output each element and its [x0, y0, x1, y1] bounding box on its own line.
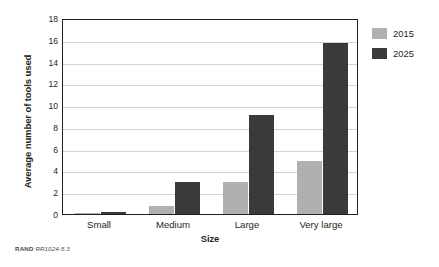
x-axis-tick-label-very-large: Very large: [276, 219, 366, 230]
gridline: [63, 85, 357, 86]
y-axis-tick-label: 10: [36, 102, 58, 111]
y-axis-tick-label: 12: [36, 80, 58, 89]
y-axis-tick-label: 16: [36, 37, 58, 46]
y-axis-tick-label: 6: [36, 146, 58, 155]
bar-large-2015: [223, 182, 248, 214]
figure-footer: RAND RR1024-5.3: [15, 245, 70, 252]
legend-item-2025: 2025: [372, 48, 414, 59]
bar-large-2025: [249, 115, 274, 214]
bar-small-2025: [101, 212, 126, 214]
footer-document-id: RR1024-5.3: [35, 245, 69, 252]
gridline: [63, 129, 357, 130]
plot-area: [62, 19, 358, 215]
legend-label-2025: 2025: [393, 48, 414, 59]
bar-chart-figure: Average number of tools used 02468101214…: [0, 0, 439, 267]
bar-very-large-2015: [297, 161, 322, 214]
footer-source: RAND: [15, 245, 34, 252]
legend-swatch-2015: [372, 28, 387, 39]
gridline: [63, 107, 357, 108]
gridline: [63, 42, 357, 43]
bar-very-large-2025: [323, 43, 348, 215]
y-axis-tick-label: 2: [36, 189, 58, 198]
bar-medium-2025: [175, 182, 200, 214]
legend-item-2015: 2015: [372, 28, 414, 39]
x-axis-title: Size: [62, 234, 358, 244]
gridline: [63, 151, 357, 152]
bar-small-2015: [75, 213, 100, 214]
legend-label-2015: 2015: [393, 28, 414, 39]
bar-medium-2015: [149, 206, 174, 214]
gridline: [63, 64, 357, 65]
y-axis-title: Average number of tools used: [22, 22, 33, 222]
legend-swatch-2025: [372, 48, 387, 59]
y-axis-tick-label: 14: [36, 59, 58, 68]
y-axis-tick-label: 4: [36, 167, 58, 176]
y-axis-tick-label: 8: [36, 124, 58, 133]
y-axis-tick-label: 18: [36, 15, 58, 24]
legend: 20152025: [372, 28, 414, 68]
